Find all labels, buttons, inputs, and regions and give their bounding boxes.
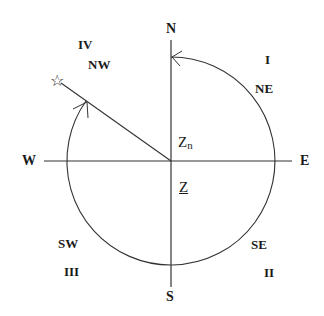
label-south: S <box>166 290 174 304</box>
star-direction-line <box>61 83 171 161</box>
label-east: E <box>300 154 309 168</box>
star-icon: ☆ <box>50 73 64 89</box>
label-quadrant-iv: IV <box>78 38 92 51</box>
label-ne: NE <box>255 82 273 95</box>
label-quadrant-i: I <box>265 53 270 66</box>
label-zn: Zn <box>178 135 193 151</box>
label-se: SE <box>251 238 267 251</box>
label-sw: SW <box>58 237 78 250</box>
label-zn-main: Z <box>178 134 187 150</box>
compass-diagram <box>0 0 324 316</box>
label-north: N <box>166 22 176 36</box>
arrowhead-north-icon <box>172 51 182 66</box>
label-quadrant-iii: III <box>64 265 79 278</box>
label-z-underlined: Z <box>179 180 188 195</box>
label-nw: NW <box>88 58 110 71</box>
label-quadrant-ii: II <box>264 266 274 279</box>
label-west: W <box>22 154 36 168</box>
label-zn-sub: n <box>187 139 193 151</box>
